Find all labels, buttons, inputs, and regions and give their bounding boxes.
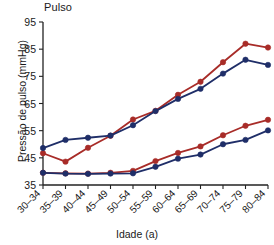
- data-point: [153, 164, 158, 169]
- chart-figure: Pulso Pressão de pulso (mmHg) Idade (a) …: [0, 0, 274, 245]
- series-line: [43, 60, 268, 148]
- y-tick-label: 65: [24, 98, 36, 110]
- data-point: [243, 137, 248, 142]
- series-group-1-blue: [40, 128, 270, 177]
- data-point: [108, 133, 113, 138]
- x-tick-label: 65–69: [172, 187, 200, 215]
- data-point: [220, 60, 225, 65]
- data-point: [130, 171, 135, 176]
- y-axis-ticks: 35455565758595: [24, 16, 43, 191]
- data-point: [63, 137, 68, 142]
- x-tick-label: 75–79: [217, 187, 245, 215]
- x-tick-label: 70–74: [195, 187, 223, 215]
- data-point: [175, 150, 180, 155]
- data-point: [243, 41, 248, 46]
- data-point: [63, 159, 68, 164]
- data-series-layer: [40, 41, 270, 177]
- y-tick-label: 55: [24, 125, 36, 137]
- data-point: [40, 151, 45, 156]
- data-point: [153, 108, 158, 113]
- x-tick-label: 35–39: [37, 187, 65, 215]
- data-point: [220, 133, 225, 138]
- data-point: [220, 71, 225, 76]
- data-point: [153, 158, 158, 163]
- data-point: [85, 171, 90, 176]
- data-point: [108, 171, 113, 176]
- data-point: [198, 152, 203, 157]
- x-tick-label: 55–59: [127, 187, 155, 215]
- y-tick-label: 45: [24, 152, 36, 164]
- x-axis-ticks: 30–3435–3940–4445–4950–5455–5960–6465–69…: [15, 185, 268, 215]
- data-point: [85, 135, 90, 140]
- series-line: [43, 44, 268, 162]
- x-tick-label: 30–34: [15, 187, 43, 215]
- data-point: [85, 145, 90, 150]
- data-point: [243, 123, 248, 128]
- data-point: [130, 117, 135, 122]
- data-point: [40, 145, 45, 150]
- data-point: [220, 142, 225, 147]
- data-point: [130, 123, 135, 128]
- series-group-4-blue: [40, 57, 270, 151]
- data-point: [198, 144, 203, 149]
- y-tick-label: 95: [24, 16, 36, 28]
- series-group-4-red: [40, 41, 270, 164]
- data-point: [63, 171, 68, 176]
- data-point: [175, 156, 180, 161]
- x-tick-label: 50–54: [105, 187, 133, 215]
- data-point: [40, 170, 45, 175]
- data-point: [265, 62, 270, 67]
- data-point: [265, 117, 270, 122]
- data-point: [243, 57, 248, 62]
- data-point: [265, 128, 270, 133]
- x-tick-label: 40–44: [60, 187, 88, 215]
- y-tick-label: 85: [24, 43, 36, 55]
- data-point: [198, 79, 203, 84]
- data-point: [198, 86, 203, 91]
- plot-area: 35455565758595 30–3435–3940–4445–4950–54…: [0, 0, 274, 245]
- data-point: [175, 96, 180, 101]
- x-tick-label: 60–64: [150, 187, 178, 215]
- data-point: [265, 45, 270, 50]
- y-tick-label: 75: [24, 70, 36, 82]
- x-tick-label: 45–49: [82, 187, 110, 215]
- x-tick-label: 80–84: [240, 187, 268, 215]
